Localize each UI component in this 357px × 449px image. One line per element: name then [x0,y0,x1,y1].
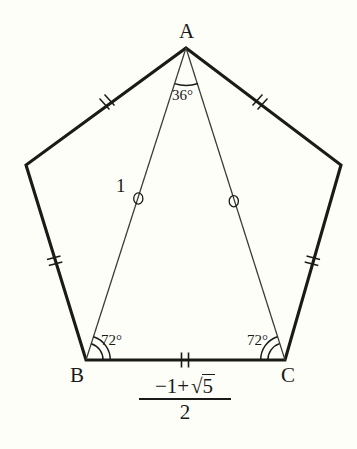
angle-label-c: 72° [247,333,268,348]
geometry-figure: A B C 36° 72° 72° 1 −1+√5 2 [0,0,357,449]
vertex-label-b: B [70,365,84,386]
angle-label-b: 72° [101,333,122,348]
square-root-group: √5 [189,374,215,397]
fraction-numerator: −1+√5 [139,374,231,398]
angle-arc-a [175,84,198,86]
angle-label-a: 36° [172,88,193,103]
fraction-numerator-lead: −1+ [155,374,189,398]
fraction-denominator: 2 [139,400,231,423]
cevian-ac [186,48,285,360]
vertex-label-c: C [281,365,295,386]
base-length-fraction: −1+√5 2 [139,374,231,423]
radicand: 5 [202,374,216,397]
tick-side-a-left [100,95,115,110]
cevian-length-label: 1 [116,176,126,195]
vertex-label-a: A [179,21,194,42]
angle-arc-c-inner [268,344,280,360]
